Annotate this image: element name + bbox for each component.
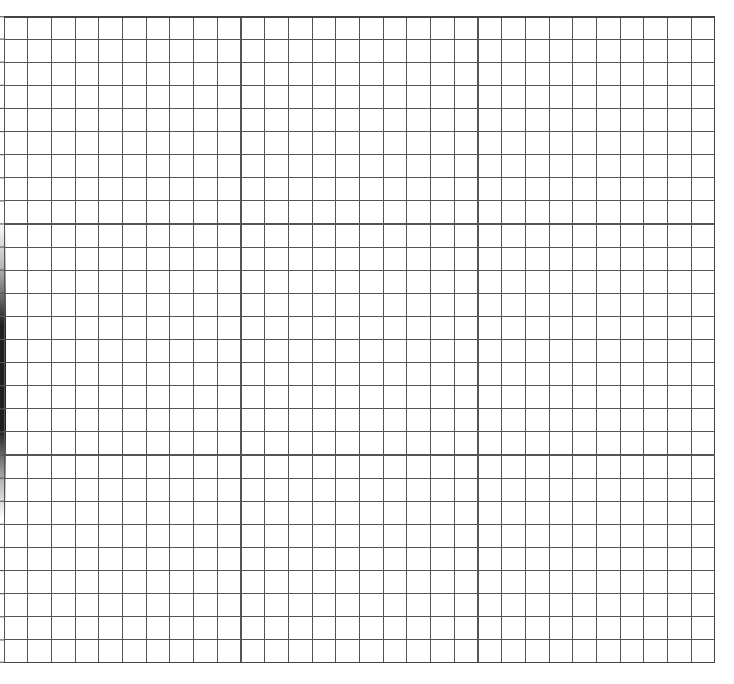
grid [4, 16, 715, 663]
graph-paper-sheet [0, 0, 734, 684]
grid-lines [4, 16, 715, 663]
grid-left-stubs [0, 16, 4, 663]
